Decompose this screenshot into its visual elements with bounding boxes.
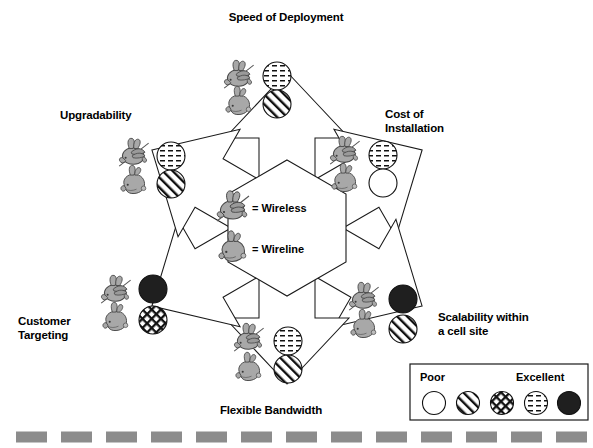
legend-swatch-good <box>491 392 514 415</box>
rating-swatch-wireless <box>157 142 185 170</box>
wireless-icon <box>101 275 130 303</box>
rating-swatch-wireless <box>139 275 167 303</box>
rating-swatch-wireline <box>263 90 291 118</box>
diagram-canvas: Speed of Deployment Cost of Installation… <box>0 0 593 448</box>
rating-swatch-wireline <box>369 169 397 197</box>
wireline-icon <box>226 86 251 114</box>
wireless-icon <box>224 60 253 88</box>
legend-swatch-fair <box>457 392 480 415</box>
wireline-icon <box>121 165 146 193</box>
legend-swatch-very-good <box>525 392 548 415</box>
wireless-icon <box>119 138 148 166</box>
wireline-icon <box>236 352 261 380</box>
axis-label-customer-targeting: Customer Targeting <box>18 315 128 342</box>
legend-label-excellent: Excellent <box>516 371 564 383</box>
rating-swatch-wireless <box>369 141 397 169</box>
axis-label-upgradability: Upgradability <box>60 109 190 123</box>
rating-swatch-wireline <box>157 170 185 198</box>
legend-swatch-poor <box>423 392 446 415</box>
rating-swatch-wireline <box>274 355 302 383</box>
axis-label-flexible-bandwidth: Flexible Bandwidth <box>181 404 361 418</box>
axis-label-scalability-within-a-cell-site: Scalability within a cell site <box>438 311 588 338</box>
rating-swatch-wireless <box>263 62 291 90</box>
rating-swatch-wireless <box>389 285 417 313</box>
diagram-vector-layer <box>0 0 593 448</box>
rating-swatch-wireline <box>389 315 417 343</box>
key-label-wireless: = Wireless <box>252 202 307 214</box>
legend-label-poor: Poor <box>420 371 445 383</box>
key-label-wireline: = Wireline <box>252 243 304 255</box>
axis-upgradability-marks <box>119 138 185 198</box>
axis-label-speed-of-deployment: Speed of Deployment <box>196 11 376 25</box>
legend-swatch-excellent <box>558 392 581 415</box>
rating-swatch-wireline <box>139 306 167 334</box>
rating-swatch-wireless <box>274 327 302 355</box>
axis-label-cost-of-installation: Cost of Installation <box>385 108 515 135</box>
